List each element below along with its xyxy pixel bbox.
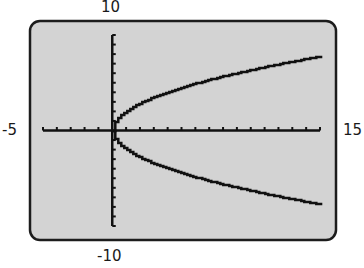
calculator-graph-screen [0,0,364,268]
